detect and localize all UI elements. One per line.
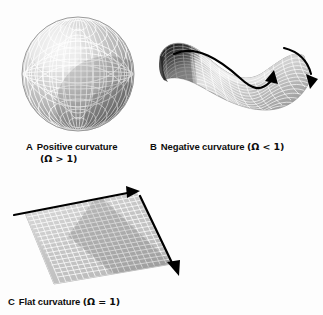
saddle-illustration bbox=[148, 10, 323, 138]
panel-b-formula: (Ω < 1) bbox=[247, 141, 284, 152]
panel-a-formula: (Ω > 1) bbox=[40, 153, 117, 165]
caption-panel-a: APositive curvature (Ω > 1) bbox=[26, 141, 117, 164]
panel-c-tag: C bbox=[8, 296, 15, 307]
caption-panel-c: CFlat curvature (Ω = 1) bbox=[8, 296, 120, 308]
panel-flat-curvature: CFlat curvature (Ω = 1) bbox=[8, 176, 208, 315]
curvature-figure: APositive curvature (Ω > 1) bbox=[0, 0, 323, 315]
panel-c-label: Flat curvature bbox=[19, 296, 80, 307]
panel-b-label: Negative curvature bbox=[161, 141, 245, 152]
panel-c-formula: (Ω = 1) bbox=[83, 296, 120, 307]
panel-a-label: Positive curvature bbox=[37, 141, 118, 152]
panel-b-tag: B bbox=[150, 141, 157, 152]
plane-illustration bbox=[8, 176, 208, 294]
panel-a-tag: A bbox=[26, 141, 33, 152]
sphere-wireframe-icon bbox=[12, 10, 152, 138]
panel-positive-curvature: APositive curvature (Ω > 1) bbox=[12, 10, 152, 170]
sphere-illustration bbox=[12, 10, 152, 138]
caption-panel-b: BNegative curvature (Ω < 1) bbox=[150, 141, 284, 153]
panel-negative-curvature: BNegative curvature (Ω < 1) bbox=[148, 10, 323, 170]
flat-grid-plane-icon bbox=[8, 176, 208, 294]
hyperbolic-saddle-wireframe-icon bbox=[148, 10, 323, 138]
